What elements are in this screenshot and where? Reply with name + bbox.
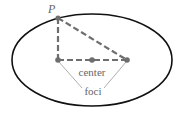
ellipse-foci-diagram: P center foci: [0, 0, 180, 113]
label-center: center: [79, 66, 106, 78]
label-p: P: [47, 2, 56, 16]
leader-right-focus: [104, 62, 126, 88]
line-p-to-right-focus: [58, 18, 127, 60]
center-dot: [89, 57, 95, 63]
point-p-dot: [55, 15, 60, 20]
left-focus-dot: [55, 57, 61, 63]
right-focus-dot: [124, 57, 130, 63]
label-foci: foci: [84, 85, 101, 97]
